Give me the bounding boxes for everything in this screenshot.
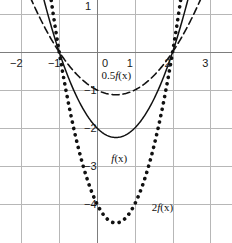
x-axis-tick-label: 1 bbox=[127, 58, 133, 69]
x-axis-tick-label: 0 bbox=[102, 58, 108, 69]
curve-label-0.5fx: 0.5f(x) bbox=[102, 70, 132, 81]
y-axis-tick-label: 1 bbox=[85, 1, 91, 12]
curve-label-2fx: 2f(x) bbox=[152, 202, 173, 213]
chart-plot-area bbox=[0, 0, 232, 243]
curve-group bbox=[26, 0, 206, 223]
axes bbox=[0, 0, 232, 243]
y-axis-tick-label: −3 bbox=[84, 161, 97, 172]
parabola-transformation-chart: −2−101231−1−2−3−4 0.5f(x)f(x)2f(x) bbox=[0, 0, 232, 243]
curve-label-fx: f(x) bbox=[111, 153, 127, 164]
y-axis-tick-label: −1 bbox=[84, 85, 97, 96]
y-axis-tick-label: −4 bbox=[84, 199, 97, 210]
y-axis-tick-label: −2 bbox=[84, 123, 97, 134]
x-axis-tick-label: 3 bbox=[202, 58, 208, 69]
x-axis-tick-label: −2 bbox=[10, 58, 23, 69]
x-axis-tick-label: −1 bbox=[48, 58, 61, 69]
x-axis-tick-label: 2 bbox=[165, 58, 171, 69]
gridlines bbox=[0, 0, 232, 243]
